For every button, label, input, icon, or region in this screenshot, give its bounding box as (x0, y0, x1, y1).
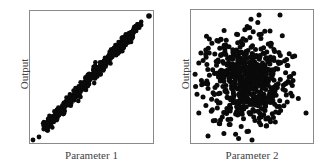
x-axis-label-2: Parameter 2 (190, 149, 314, 161)
y-axis-label-1: Output (18, 44, 30, 104)
scatter-points-2 (191, 10, 313, 143)
scatter-points-1 (30, 11, 153, 143)
y-axis-label-2: Output (179, 44, 191, 104)
scatter-plot-parameter-2 (190, 9, 314, 144)
scatter-plot-parameter-1 (29, 10, 154, 144)
x-axis-label-1: Parameter 1 (29, 149, 154, 161)
